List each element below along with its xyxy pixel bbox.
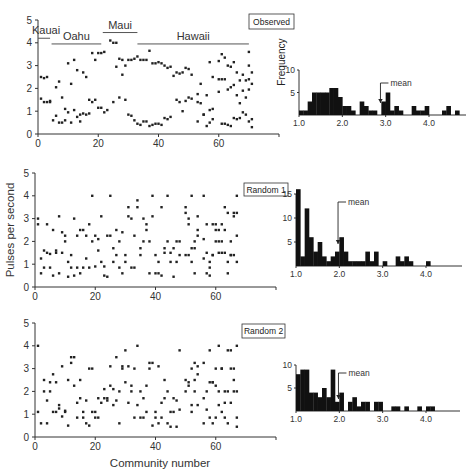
histogram-bar	[312, 93, 317, 116]
histogram-bar	[338, 97, 343, 115]
histogram-bar	[321, 93, 326, 116]
data-point	[133, 416, 135, 418]
data-point	[178, 72, 180, 74]
data-point	[37, 217, 39, 219]
data-point	[215, 385, 217, 387]
histogram-bar	[303, 111, 308, 116]
data-point	[115, 42, 117, 44]
data-point	[61, 365, 63, 367]
data-point	[145, 385, 147, 387]
data-point	[118, 96, 120, 98]
data-point	[70, 362, 72, 364]
data-point	[82, 71, 84, 73]
data-point	[166, 195, 168, 197]
data-point	[85, 422, 87, 424]
histogram-x-tick-label: 3.0	[377, 414, 389, 424]
data-point	[221, 123, 223, 125]
data-point	[109, 385, 111, 387]
histogram-bar	[313, 252, 318, 266]
data-point	[106, 399, 108, 401]
y-tick-label: 2	[26, 83, 32, 94]
y-tick-label: 0	[23, 432, 29, 443]
data-point	[115, 254, 117, 256]
data-point	[242, 74, 244, 76]
data-point	[236, 118, 238, 120]
data-point	[112, 261, 114, 263]
data-point	[130, 59, 132, 61]
data-point	[79, 113, 81, 115]
data-point	[133, 266, 135, 268]
data-point	[206, 272, 208, 274]
x-tick-label: 60	[210, 441, 222, 452]
data-point	[79, 397, 81, 399]
data-point	[97, 107, 99, 109]
y-tick-label: 1	[23, 259, 29, 270]
histogram-bar	[396, 406, 401, 411]
data-point	[209, 381, 211, 383]
data-point	[218, 240, 220, 242]
data-point	[55, 381, 57, 383]
data-point	[190, 247, 192, 249]
data-point	[100, 107, 102, 109]
data-point	[121, 272, 123, 274]
data-point	[206, 408, 208, 410]
data-point	[236, 261, 238, 263]
data-point	[196, 235, 198, 237]
data-point	[61, 415, 63, 417]
histogram-bar	[313, 393, 318, 411]
histogram-bar	[412, 106, 417, 115]
region-label: Hawaii	[177, 30, 210, 42]
data-point	[224, 206, 226, 208]
histogram-bar	[300, 256, 305, 266]
histogram-bar	[404, 406, 409, 411]
histogram-bar	[374, 402, 379, 411]
mean-label: mean	[348, 197, 370, 207]
data-point	[64, 119, 66, 121]
data-point	[124, 254, 126, 256]
data-point	[79, 120, 81, 122]
data-point	[67, 424, 69, 426]
data-point	[46, 252, 48, 254]
data-point	[97, 416, 99, 418]
data-point	[227, 64, 229, 66]
x-tick-label: 20	[90, 291, 102, 302]
data-point	[218, 60, 220, 62]
histogram-y-tick-label: 5	[287, 237, 292, 247]
data-point	[163, 397, 165, 399]
data-point	[148, 240, 150, 242]
data-point	[160, 402, 162, 404]
histogram-bar	[378, 402, 383, 411]
data-point	[175, 426, 177, 428]
data-point	[151, 62, 153, 64]
data-point	[115, 229, 117, 231]
data-point	[209, 349, 211, 351]
data-point	[233, 215, 235, 217]
data-point	[215, 240, 217, 242]
data-point	[52, 373, 54, 375]
data-point	[103, 397, 105, 399]
data-point	[112, 404, 114, 406]
data-point	[184, 67, 186, 69]
data-point	[40, 97, 42, 99]
data-point	[133, 119, 135, 121]
histogram-bar	[331, 370, 336, 411]
data-point	[124, 381, 126, 383]
data-point	[190, 261, 192, 263]
data-point	[187, 385, 189, 387]
data-point	[242, 89, 244, 91]
data-point	[230, 367, 232, 369]
data-point	[73, 109, 75, 111]
histogram-y-tick-label: 15	[283, 189, 293, 199]
data-point	[118, 58, 120, 60]
data-point	[212, 223, 214, 225]
histogram-bar	[348, 261, 353, 266]
mean-label: mean	[348, 368, 370, 378]
data-point	[127, 402, 129, 404]
y-tick-label: 5	[23, 318, 29, 329]
histogram-bar	[357, 406, 362, 411]
data-point	[230, 402, 232, 404]
histogram-bar	[391, 406, 396, 411]
data-point	[148, 125, 150, 127]
histogram-bar	[329, 88, 334, 115]
data-point	[118, 390, 120, 392]
